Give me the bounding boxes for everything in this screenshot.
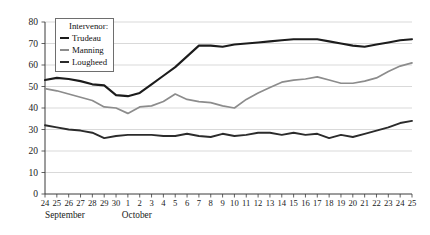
y-axis-label: 30: [12, 125, 38, 135]
x-axis-label: 19: [337, 198, 346, 208]
x-axis-label: 12: [254, 198, 263, 208]
x-axis-label: 16: [301, 198, 310, 208]
x-axis-label: 2: [138, 198, 142, 208]
y-axis-label: 70: [12, 39, 38, 49]
month-caption: October: [122, 210, 152, 221]
x-axis-label: 3: [149, 198, 153, 208]
legend-label: Lougheed: [72, 57, 107, 68]
x-axis-label: 23: [384, 198, 393, 208]
legend: Intervenor: TrudeauManningLougheed: [55, 18, 114, 72]
x-axis-label: 24: [41, 198, 50, 208]
x-axis-label: 11: [242, 198, 250, 208]
legend-title: Intervenor:: [60, 21, 108, 32]
legend-entries: TrudeauManningLougheed: [60, 32, 108, 68]
legend-label: Manning: [72, 45, 104, 56]
y-axis-label: 0: [12, 189, 38, 199]
y-axis-label: 40: [12, 103, 38, 113]
y-axis-label: 20: [12, 146, 38, 156]
x-axis-label: 26: [64, 198, 73, 208]
series-line-lougheed: [45, 121, 412, 138]
x-axis-label: 24: [396, 198, 405, 208]
x-axis-label: 17: [313, 198, 322, 208]
legend-item-lougheed: Lougheed: [60, 56, 108, 68]
month-caption: September: [45, 210, 85, 221]
y-axis-label: 60: [12, 60, 38, 70]
x-axis-label: 1: [126, 198, 130, 208]
x-axis-label: 10: [230, 198, 239, 208]
x-axis-label: 4: [161, 198, 165, 208]
legend-swatch-icon: [60, 37, 69, 39]
x-axis-label: 9: [220, 198, 224, 208]
legend-label: Trudeau: [72, 33, 101, 44]
x-axis-label: 20: [349, 198, 358, 208]
x-axis-label: 7: [197, 198, 201, 208]
x-axis-label: 15: [289, 198, 298, 208]
legend-swatch-icon: [60, 49, 69, 51]
legend-item-trudeau: Trudeau: [60, 32, 108, 44]
legend-swatch-icon: [60, 61, 69, 63]
x-axis-label: 5: [173, 198, 177, 208]
legend-item-manning: Manning: [60, 44, 108, 56]
x-axis-label: 29: [100, 198, 109, 208]
y-axis-label: 80: [12, 17, 38, 27]
x-axis-label: 21: [360, 198, 369, 208]
x-axis-label: 14: [277, 198, 286, 208]
y-axis-label: 10: [12, 168, 38, 178]
x-axis-label: 27: [76, 198, 85, 208]
x-axis-label: 25: [408, 198, 417, 208]
x-axis-label: 13: [266, 198, 275, 208]
x-axis-label: 6: [185, 198, 189, 208]
month-captions: SeptemberOctober: [45, 210, 412, 224]
line-chart: 01020304050607080 2425262728293012345678…: [0, 0, 430, 235]
x-axis-label: 25: [53, 198, 62, 208]
x-axis-label: 28: [88, 198, 97, 208]
y-axis-label: 50: [12, 82, 38, 92]
x-axis-label: 30: [112, 198, 121, 208]
y-axis-labels: 01020304050607080: [6, 0, 38, 235]
x-axis-label: 8: [209, 198, 213, 208]
x-axis-label: 18: [325, 198, 334, 208]
x-axis-label: 22: [372, 198, 381, 208]
